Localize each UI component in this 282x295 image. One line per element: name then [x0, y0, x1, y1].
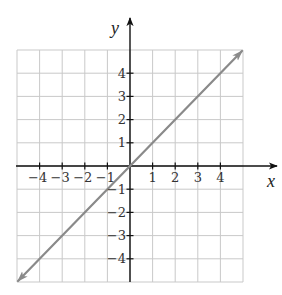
y-tick-label: −4	[107, 251, 126, 266]
y-tick-label: −1	[107, 182, 126, 197]
y-tick-label: 4	[118, 66, 126, 81]
x-tick-label: −3	[51, 170, 70, 185]
y-tick-label: 3	[118, 89, 126, 104]
y-axis-label: y	[109, 18, 119, 38]
x-tick-label: 4	[216, 170, 224, 185]
coordinate-plane: −4−3−2−11234−4−3−2−11234 x y	[0, 0, 282, 295]
x-tick-label: −2	[73, 170, 92, 185]
y-tick-label: −3	[107, 228, 126, 243]
y-tick-label: 2	[118, 112, 126, 127]
x-tick-label: 1	[148, 170, 156, 185]
x-axis-label: x	[266, 171, 275, 191]
y-tick-label: 1	[118, 135, 126, 150]
x-tick-label: −4	[28, 170, 47, 185]
x-tick-label: 2	[171, 170, 179, 185]
x-tick-label: 3	[194, 170, 202, 185]
y-tick-label: −2	[107, 205, 126, 220]
